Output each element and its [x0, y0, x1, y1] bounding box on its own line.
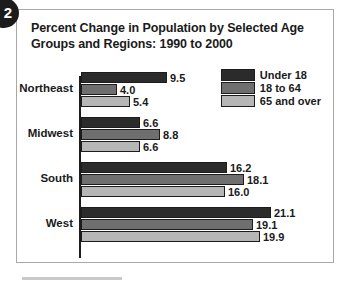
bar-group-northeast: Northeast 9.5 4.0 5.4: [17, 70, 335, 108]
bar-value-label: 19.1: [256, 219, 277, 231]
bar-65-and-over: [81, 186, 225, 197]
category-label-northeast: Northeast: [17, 82, 73, 94]
category-label-midwest: Midwest: [17, 127, 73, 139]
chart-panel: Percent Change in Population by Selected…: [16, 9, 334, 263]
bar-value-label: 19.9: [263, 231, 284, 243]
bar-row: 21.1: [81, 207, 295, 218]
bar-row: 9.5: [81, 72, 185, 83]
bar-group-south: South 16.2 18.1 16.0: [17, 160, 335, 198]
bar-65-and-over: [81, 231, 260, 242]
bar-value-label: 6.6: [143, 117, 158, 129]
bar-row: 5.4: [81, 96, 148, 107]
bar-row: 18.1: [81, 174, 268, 185]
bar-value-label: 4.0: [120, 84, 135, 96]
bar-18-to-64: [81, 219, 253, 230]
bar-under-18: [81, 72, 167, 83]
chart-title: Percent Change in Population by Selected…: [31, 20, 319, 52]
bar-group-midwest: Midwest 6.6 8.8 6.6: [17, 115, 335, 153]
bar-value-label: 18.1: [247, 174, 268, 186]
bar-18-to-64: [81, 84, 117, 95]
bottom-divider: [22, 277, 122, 280]
bar-65-and-over: [81, 141, 140, 152]
category-label-south: South: [17, 172, 73, 184]
category-label-west: West: [17, 217, 73, 229]
bar-row: 19.1: [81, 219, 277, 230]
bar-row: 6.6: [81, 117, 158, 128]
bar-65-and-over: [81, 96, 130, 107]
bar-under-18: [81, 207, 271, 218]
bar-18-to-64: [81, 174, 244, 185]
bar-under-18: [81, 162, 227, 173]
bar-under-18: [81, 117, 140, 128]
bar-18-to-64: [81, 129, 160, 140]
bar-row: 8.8: [81, 129, 178, 140]
bar-value-label: 9.5: [170, 72, 185, 84]
bar-row: 4.0: [81, 84, 135, 95]
bar-value-label: 6.6: [143, 141, 158, 153]
bar-value-label: 5.4: [133, 96, 148, 108]
bar-row: 6.6: [81, 141, 158, 152]
bar-value-label: 16.2: [230, 162, 251, 174]
bar-value-label: 16.0: [228, 186, 249, 198]
bar-value-label: 8.8: [163, 129, 178, 141]
bar-value-label: 21.1: [274, 207, 295, 219]
bar-group-west: West 21.1 19.1 19.9: [17, 205, 335, 243]
bar-row: 19.9: [81, 231, 284, 242]
plot-area: Northeast 9.5 4.0 5.4 Midwest 6.6 8: [17, 70, 335, 262]
bar-row: 16.0: [81, 186, 249, 197]
bar-row: 16.2: [81, 162, 251, 173]
